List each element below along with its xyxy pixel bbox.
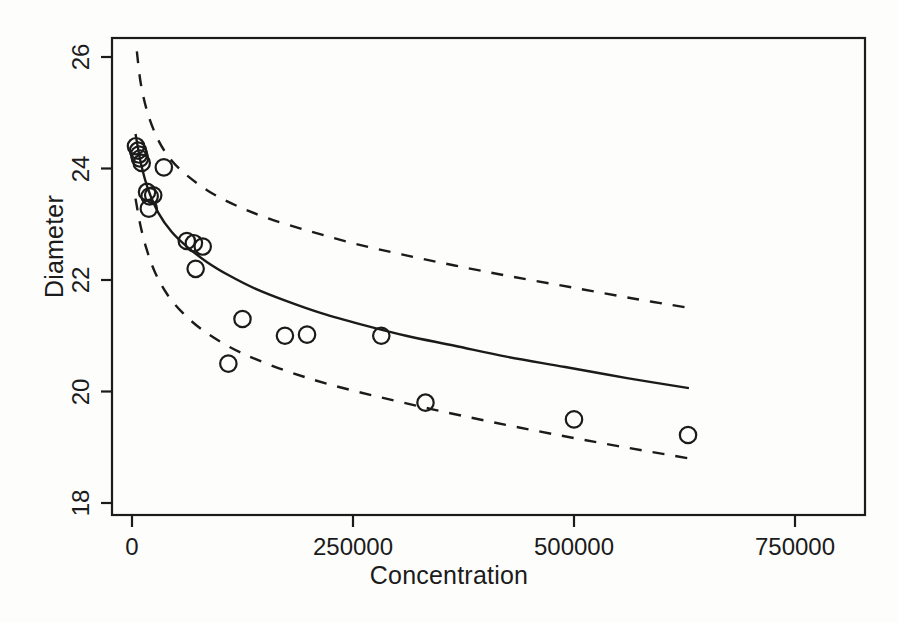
y-tick-label: 26 [67,27,95,87]
data-points [128,138,696,443]
x-axis-title: Concentration [0,561,898,590]
scatter-plot-svg [0,0,898,623]
axis-box [112,38,865,515]
confidence-bands [136,51,689,458]
y-tick-label: 18 [67,473,95,533]
x-tick-label: 500000 [474,533,674,561]
x-tick-label: 0 [32,533,232,561]
y-axis-title: Diameter [40,147,69,347]
figure-canvas: 1820222426 0250000500000750000 Diameter … [0,0,898,623]
x-tick-label: 750000 [695,533,895,561]
fitted-curve [136,134,689,388]
axis-ticks [101,57,795,527]
y-tick-label: 20 [67,362,95,422]
y-tick-label: 24 [67,139,95,199]
x-tick-label: 250000 [253,533,453,561]
y-tick-label: 22 [67,250,95,310]
